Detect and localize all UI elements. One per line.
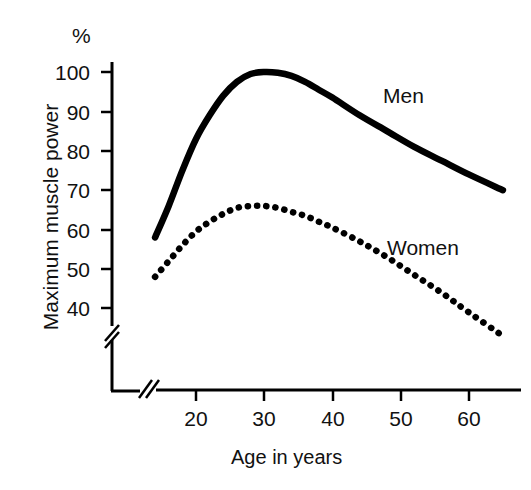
- chart-container: % Maximum muscle power Age in years 100 …: [0, 0, 531, 490]
- y-tick-label-50: 50: [44, 258, 90, 282]
- y-tick-label-100: 100: [44, 61, 90, 85]
- y-tick-label-80: 80: [44, 140, 90, 164]
- series-line-men: [155, 72, 503, 238]
- x-tick-label-30: 30: [241, 407, 287, 431]
- x-axis-ticks: [196, 390, 469, 401]
- y-axis-unit-symbol: %: [72, 24, 91, 48]
- y-tick-label-40: 40: [44, 297, 90, 321]
- y-tick-label-70: 70: [44, 179, 90, 203]
- y-tick-label-60: 60: [44, 219, 90, 243]
- x-tick-label-40: 40: [310, 407, 356, 431]
- x-tick-label-60: 60: [446, 407, 492, 431]
- y-axis-ticks: [101, 72, 112, 308]
- x-tick-label-20: 20: [173, 407, 219, 431]
- series-line-women: [155, 206, 503, 336]
- series-label-women: Women: [387, 236, 459, 260]
- y-tick-label-90: 90: [44, 101, 90, 125]
- series-label-men: Men: [383, 84, 424, 108]
- x-tick-label-50: 50: [378, 407, 424, 431]
- x-axis-title: Age in years: [231, 446, 342, 469]
